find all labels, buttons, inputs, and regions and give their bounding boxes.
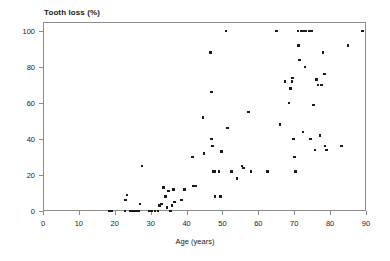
data-point	[361, 30, 364, 33]
x-axis-tick-label: 80	[315, 219, 345, 228]
data-point	[320, 84, 323, 87]
data-point	[292, 138, 295, 141]
data-point	[124, 199, 127, 202]
data-point	[250, 170, 253, 173]
data-point	[293, 156, 296, 159]
data-point	[284, 80, 287, 83]
data-point	[288, 102, 291, 105]
x-axis-tick-mark	[187, 211, 188, 215]
x-axis-tick-mark	[366, 211, 367, 215]
x-axis-tick-label: 70	[279, 219, 309, 228]
data-point	[314, 149, 317, 152]
data-point	[218, 170, 221, 173]
data-point	[209, 51, 212, 54]
data-point	[312, 104, 315, 107]
data-point	[289, 87, 292, 90]
data-point	[315, 78, 318, 81]
data-point	[180, 199, 183, 202]
data-point	[236, 177, 239, 180]
data-point	[304, 30, 307, 33]
data-point	[202, 116, 205, 119]
x-axis-tick-label: 40	[172, 219, 202, 228]
data-point	[219, 195, 222, 198]
data-point	[111, 210, 114, 213]
data-point	[124, 210, 127, 213]
data-point	[157, 210, 160, 213]
data-point	[311, 30, 314, 33]
data-point	[211, 145, 214, 148]
data-point	[210, 91, 213, 94]
data-point	[162, 186, 165, 189]
data-point	[137, 210, 140, 213]
data-point	[195, 185, 198, 188]
data-point	[139, 203, 142, 206]
x-axis-tick-label: 10	[64, 219, 94, 228]
data-point	[171, 204, 174, 207]
data-point	[297, 44, 300, 47]
x-axis-tick-label: 0	[28, 219, 58, 228]
data-points-layer	[43, 22, 366, 211]
data-point	[169, 210, 172, 213]
data-point	[279, 123, 282, 126]
data-point	[323, 73, 326, 76]
data-point	[166, 206, 169, 209]
data-point	[247, 111, 250, 114]
x-axis-tick-mark	[79, 211, 80, 215]
data-point	[167, 190, 170, 193]
data-point	[291, 80, 294, 83]
data-point	[220, 150, 223, 153]
data-point	[309, 138, 312, 141]
data-point	[226, 127, 229, 130]
data-point	[275, 30, 278, 33]
data-point	[210, 138, 213, 141]
data-point	[230, 170, 233, 173]
x-axis-title: Age (years)	[0, 237, 390, 246]
data-point	[183, 188, 186, 191]
data-point	[291, 77, 294, 80]
data-point	[173, 201, 176, 204]
data-point	[297, 30, 300, 33]
data-point	[164, 195, 167, 198]
data-point	[242, 167, 245, 170]
x-axis-tick-mark	[330, 211, 331, 215]
x-axis-tick-mark	[115, 211, 116, 215]
data-point	[172, 188, 175, 191]
x-axis-tick-label: 50	[207, 219, 237, 228]
data-point	[126, 194, 129, 197]
data-point	[324, 145, 327, 148]
data-point	[214, 195, 217, 198]
x-axis-tick-label: 60	[243, 219, 273, 228]
x-axis-tick-mark	[294, 211, 295, 215]
data-point	[141, 165, 144, 168]
x-axis-tick-label: 90	[351, 219, 381, 228]
data-point	[191, 156, 194, 159]
x-axis-tick-mark	[222, 211, 223, 215]
data-point	[160, 203, 163, 206]
data-point	[225, 30, 228, 33]
data-point	[298, 59, 301, 62]
data-point	[319, 134, 322, 137]
data-point	[302, 131, 305, 134]
data-point	[294, 170, 297, 173]
scatter-plot-figure: Tooth loss (%) 020406080100 010203040506…	[0, 0, 390, 261]
data-point	[322, 51, 325, 54]
data-point	[203, 152, 206, 155]
data-point	[325, 149, 328, 152]
x-axis-tick-label: 20	[100, 219, 130, 228]
data-point	[266, 170, 269, 173]
data-point	[304, 66, 307, 69]
x-axis-tick-mark	[258, 211, 259, 215]
data-point	[317, 84, 320, 87]
data-point	[347, 44, 350, 47]
x-axis-tick-label: 30	[136, 219, 166, 228]
data-point	[213, 170, 216, 173]
data-point	[340, 145, 343, 148]
x-axis-tick-mark	[43, 211, 44, 215]
